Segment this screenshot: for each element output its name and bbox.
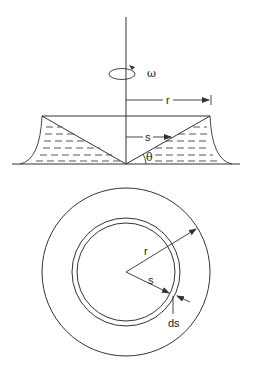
- r-label-top: r: [166, 94, 170, 106]
- left-wall-curve: [20, 116, 42, 164]
- side-view: ω r: [12, 17, 240, 164]
- right-wall-curve: [210, 116, 232, 164]
- s-label-bottom: s: [148, 274, 154, 286]
- r-radius-arrow: [126, 229, 196, 272]
- plan-view: r s ds: [42, 188, 210, 356]
- omega-label: ω: [147, 67, 156, 80]
- rotation-ellipse: [109, 69, 135, 80]
- theta-label: θ: [146, 151, 153, 164]
- cone-left: [42, 116, 126, 164]
- ds-label: ds: [168, 317, 180, 329]
- liquid-hatching-right: [155, 127, 218, 161]
- r-label-bottom: r: [144, 245, 148, 257]
- s-label-top: s: [145, 131, 151, 143]
- diagram-canvas: ω r: [0, 0, 254, 372]
- liquid-hatching-left: [36, 127, 120, 161]
- ds-arrow: [177, 296, 190, 302]
- cone-right: [126, 116, 210, 164]
